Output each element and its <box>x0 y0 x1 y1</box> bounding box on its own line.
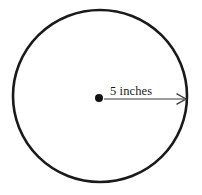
center-point-dot <box>95 94 103 102</box>
radius-label: 5 inches <box>110 84 152 98</box>
diagram-canvas: 5 inches <box>0 0 202 195</box>
circle-diagram: 5 inches <box>0 0 202 195</box>
